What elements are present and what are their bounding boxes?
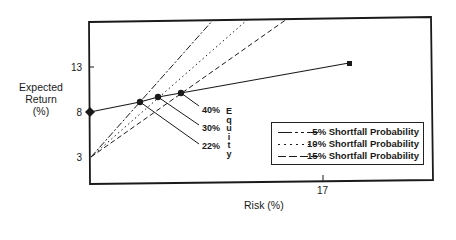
equity-letter: y xyxy=(225,150,233,159)
equity-40-label: 40% xyxy=(202,105,220,116)
legend-item-10pct: 10% Shortfall Probability xyxy=(272,138,423,150)
legend-item-15pct: 15% Shortfall Probability xyxy=(272,150,423,162)
y-tick-label-3: 3 xyxy=(66,152,82,163)
x-tick-label-17: 17 xyxy=(317,185,328,196)
equity-22-label: 22% xyxy=(202,141,220,152)
legend-label: 10% Shortfall Probability xyxy=(307,138,419,149)
equity-vertical-label: E q u i t y xyxy=(225,107,233,159)
start-diamond-marker xyxy=(85,107,95,117)
shortfall-5-line xyxy=(91,20,213,157)
legend-label: 15% Shortfall Probability xyxy=(307,150,419,161)
legend-label: 5% Shortfall Probability xyxy=(312,126,419,137)
end-square-marker xyxy=(347,61,352,66)
y-axis-label-line-2: Return xyxy=(10,93,72,105)
shortfall-10-line xyxy=(91,20,247,157)
equity-30-label: 30% xyxy=(202,123,220,134)
leader-22 xyxy=(140,102,199,144)
leader-40 xyxy=(181,93,199,106)
chart-legend: 5% Shortfall Probability 10% Shortfall P… xyxy=(271,122,424,165)
x-axis-label: Risk (%) xyxy=(244,200,284,211)
y-axis-label-line-3: (%) xyxy=(10,105,72,117)
y-axis-label-line-1: Expected xyxy=(10,81,72,93)
y-tick-label-8: 8 xyxy=(66,107,82,118)
y-axis-label: Expected Return (%) xyxy=(10,81,72,117)
y-tick-label-13: 13 xyxy=(66,62,82,73)
legend-item-5pct: 5% Shortfall Probability xyxy=(272,126,423,138)
